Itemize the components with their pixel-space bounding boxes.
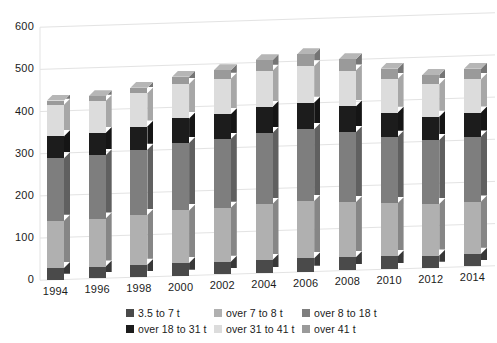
bar-segment	[47, 101, 64, 105]
bar-segment	[172, 84, 189, 119]
legend-swatch-icon	[214, 325, 222, 333]
legend-item[interactable]: over 7 to 8 t	[214, 305, 298, 320]
plot-area: 6005004003002001000 19941996199820002002…	[0, 0, 497, 300]
bar-segment	[47, 136, 64, 158]
bar-segment	[381, 256, 398, 269]
bar-segment	[89, 96, 106, 101]
bar-segment	[130, 265, 147, 277]
bar-segment-side	[481, 196, 487, 248]
bar-segment-side	[314, 195, 320, 252]
bar-segment	[339, 71, 356, 107]
y-axis-tick-label: 500	[0, 62, 34, 74]
bar-segment-side	[273, 127, 279, 198]
bar-segment-side	[147, 209, 153, 259]
bar-segment	[256, 204, 273, 260]
legend-swatch-icon	[302, 325, 310, 333]
bar-segment	[381, 137, 398, 204]
legend-item[interactable]: 3.5 to 7 t	[126, 305, 210, 320]
x-axis-tick-label: 2010	[371, 274, 407, 286]
bar-segment	[339, 106, 356, 132]
bar-segment	[47, 105, 64, 137]
y-axis-tick-label: 400	[0, 105, 34, 117]
bar-segment	[256, 60, 273, 71]
y-axis-tick-label: 100	[0, 231, 34, 243]
bar-segment	[130, 150, 147, 215]
bar-segment	[339, 132, 356, 202]
legend-label: over 8 to 18 t	[314, 307, 377, 319]
legend-swatch-icon	[214, 309, 222, 317]
legend-label: over 18 to 31 t	[138, 323, 207, 335]
legend-item[interactable]: over 31 to 41 t	[214, 321, 298, 336]
bar-segment	[130, 88, 147, 93]
bar-segment	[172, 143, 189, 210]
bar-segment	[89, 155, 106, 218]
bar-segment	[422, 204, 439, 255]
bar-segment-side	[231, 73, 237, 108]
legend-swatch-icon	[126, 325, 134, 333]
bar-segment-side	[64, 215, 70, 262]
bar-segment	[464, 113, 481, 137]
bar-segment-side	[106, 149, 112, 212]
x-axis-tick-label: 1998	[121, 282, 157, 294]
legend-label: over 41 t	[314, 323, 356, 335]
bar-segment	[381, 203, 398, 256]
bar-segment	[422, 75, 439, 84]
x-axis-tick-label: 1996	[79, 283, 115, 295]
legend-item[interactable]: over 18 to 31 t	[126, 321, 210, 336]
bar-segment-side	[189, 137, 195, 204]
bar-segment	[297, 66, 314, 103]
bar-segment	[422, 256, 439, 268]
bar-segment	[214, 114, 231, 139]
bar-segment-side	[398, 131, 404, 198]
bar-segment-side	[147, 144, 153, 209]
y-axis-tick-label: 0	[0, 273, 34, 285]
y-axis-tick-label: 600	[0, 20, 34, 32]
chart-legend: 3.5 to 7 tover 7 to 8 tover 8 to 18 tove…	[126, 305, 386, 336]
bar-segment	[339, 59, 356, 70]
bar-segment	[422, 117, 439, 140]
bar-segment	[47, 221, 64, 268]
legend-item[interactable]: over 8 to 18 t	[302, 305, 386, 320]
bar-segment	[464, 137, 481, 202]
legend-item[interactable]: over 41 t	[302, 321, 386, 336]
chart-container: 6005004003002001000 19941996199820002002…	[0, 0, 497, 343]
bar-segment-side	[231, 202, 237, 256]
x-axis-tick-label: 1994	[38, 285, 74, 297]
bar-segment	[256, 260, 273, 273]
legend-label: over 7 to 8 t	[226, 307, 283, 319]
bar-segment	[256, 133, 273, 204]
bar-segment	[172, 118, 189, 142]
bar-segment	[130, 215, 147, 265]
bar-segment	[381, 69, 398, 79]
bar-segment	[381, 79, 398, 113]
x-axis-tick-label: 2008	[329, 275, 365, 287]
bar-segment	[464, 69, 481, 80]
x-axis-tick-label: 2004	[246, 278, 282, 290]
bar-segment-side	[314, 123, 320, 195]
legend-label: over 31 to 41 t	[226, 323, 295, 335]
bar-segment	[297, 103, 314, 130]
bar-segment	[172, 210, 189, 263]
legend-swatch-icon	[126, 309, 134, 317]
bar-segment-side	[439, 198, 445, 249]
bar-segment	[47, 268, 64, 280]
bar-segment	[256, 107, 273, 133]
bar-segment-side	[64, 152, 70, 214]
bar-segment-side	[314, 60, 320, 97]
bar-segment-side	[398, 197, 404, 250]
x-axis-tick-label: 2014	[455, 271, 491, 283]
bar-segment	[339, 257, 356, 270]
y-axis-tick-label: 300	[0, 147, 34, 159]
bar-segment	[297, 258, 314, 271]
bar-segment-side	[273, 65, 279, 101]
bar-segment	[214, 139, 231, 208]
bar-segment	[256, 71, 273, 107]
bar-segment	[464, 202, 481, 254]
x-axis-tick-label: 2000	[163, 281, 199, 293]
y-axis-tick-label: 200	[0, 189, 34, 201]
bar-segment	[172, 263, 189, 276]
bar-segment	[214, 70, 231, 78]
bar-segment	[89, 133, 106, 155]
bar-segment	[297, 201, 314, 258]
bar-segment	[89, 101, 106, 133]
